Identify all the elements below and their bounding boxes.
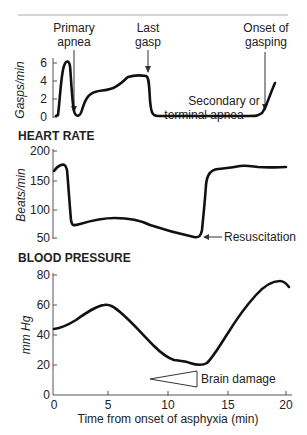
blood-pressure-title: BLOOD PRESSURE [18,251,131,265]
arrowhead-icon [145,66,151,73]
y-tick-label: 2 [40,92,47,106]
y-tick-label: 4 [40,74,47,88]
heart-y-label: Beats/min [14,168,28,222]
y-tick-label: 80 [37,268,51,282]
last-gasp-label-2: gasp [135,35,161,49]
x-tick-label: 0 [51,398,58,412]
onset-gasping-label-1: Onset of [243,21,289,35]
primary-apnea-label-1: Primary [53,21,94,35]
blood-pressure-line [54,281,289,365]
brain-damage-label: Brain damage [201,372,276,386]
x-axis-label: Time from onset of asphyxia (min) [78,412,259,426]
arrowhead-icon [203,234,209,240]
y-tick-label: 40 [37,328,51,342]
y-tick-label: 20 [37,358,51,372]
primary-apnea-label-2: apnea [57,35,91,49]
secondary-apnea-label-1: Secondary or [188,94,259,108]
asphyxia-chart: Primary apnea Last gasp Onset of gasping… [0,0,307,435]
last-gasp-label-1: Last [137,21,160,35]
gasps-panel: Primary apnea Last gasp Onset of gasping… [13,21,289,124]
blood-pressure-panel: BLOOD PRESSURE mm Hg 80 60 40 20 0 0 5 1… [18,251,293,426]
x-tick-label: 5 [105,398,112,412]
x-tick-label: 10 [161,398,175,412]
onset-gasping-label-2: gasping [245,35,287,49]
y-tick-label: 0 [40,110,47,124]
heart-rate-title: HEART RATE [18,129,94,143]
y-tick-label: 200 [30,144,50,158]
y-tick-label: 0 [43,388,50,402]
heart-rate-panel: HEART RATE Beats/min 200 150 100 50 Resu… [14,129,296,245]
y-tick-label: 6 [40,56,47,70]
heart-rate-line [54,165,286,238]
resuscitation-label: Resuscitation [224,230,296,244]
bp-y-label: mm Hg [19,315,33,354]
x-tick-label: 20 [279,398,293,412]
x-tick-label: 15 [221,398,235,412]
y-tick-label: 60 [37,298,51,312]
y-tick-label: 50 [37,231,51,245]
y-tick-label: 150 [30,174,50,188]
y-tick-label: 100 [30,203,50,217]
brain-damage-wedge-icon [150,371,197,387]
gasps-y-label: Gasps/min [13,61,27,119]
